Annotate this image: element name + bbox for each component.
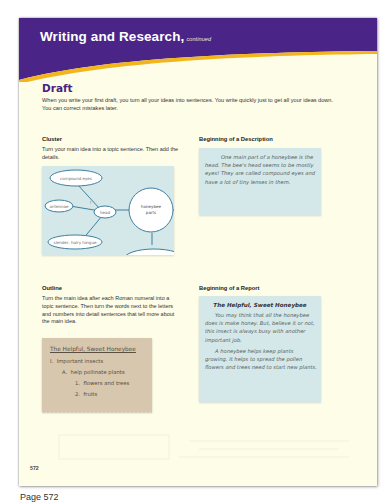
report-heading: Beginning of a Report (199, 285, 260, 291)
cluster-heading: Cluster (42, 136, 62, 142)
header-continued: continued (186, 36, 211, 42)
node-center-2: parts (146, 210, 156, 215)
report-paragraph-2: A honeybee helps keep plants growing. It… (205, 347, 317, 372)
outline-item-3: 1. flowers and trees (75, 380, 129, 386)
page-header: Writing and Research,continued (19, 18, 377, 82)
outline-card-title: The Helpful, Sweet Honeybee (50, 346, 136, 352)
page-caption: Page 572 (20, 492, 59, 502)
outline-item-2: A. help pollinate plants (62, 369, 125, 375)
page-number: 572 (30, 465, 39, 471)
faint-background-illustration (49, 433, 359, 463)
textbook-page: Writing and Research,continued Draft Whe… (19, 18, 377, 486)
report-title: The Helpful, Sweet Honeybee (199, 301, 321, 309)
report-paragraph-1: You may think that all the honeybee does… (205, 311, 317, 344)
cluster-text: Turn your main idea into a topic sentenc… (42, 146, 182, 162)
node-antennae: antennae (50, 204, 70, 209)
description-text: One main part of a honeybee is the head.… (205, 153, 317, 186)
node-compound-eyes: compound eyes (60, 176, 92, 181)
header-title: Writing and Research,continued (40, 29, 211, 44)
draft-intro: When you write your first draft, you tur… (42, 96, 342, 112)
description-heading: Beginning of a Description (199, 136, 273, 142)
outline-heading: Outline (42, 285, 62, 291)
cluster-diagram: compound eyes antennae head slender, hai… (42, 166, 174, 255)
cluster-web: compound eyes antennae head slender, hai… (42, 166, 174, 255)
node-tongue: slender, hairy tongue (54, 240, 97, 245)
outline-card: The Helpful, Sweet Honeybee I. Important… (42, 338, 152, 412)
outline-text: Turn the main idea after each Roman nume… (42, 295, 182, 326)
node-mark: f (90, 200, 92, 205)
node-center-1: honeybee (141, 204, 161, 209)
header-band-shape (19, 18, 377, 82)
header-title-text: Writing and Research, (40, 29, 184, 44)
outline-item-1: I. Important insects (50, 358, 103, 364)
section-title-draft: Draft (42, 82, 73, 94)
report-card: The Helpful, Sweet Honeybee You may thin… (199, 296, 321, 402)
node-head: head (100, 210, 110, 215)
description-card: One main part of a honeybee is the head.… (199, 148, 321, 215)
outline-item-4: 2. fruits (75, 391, 97, 397)
